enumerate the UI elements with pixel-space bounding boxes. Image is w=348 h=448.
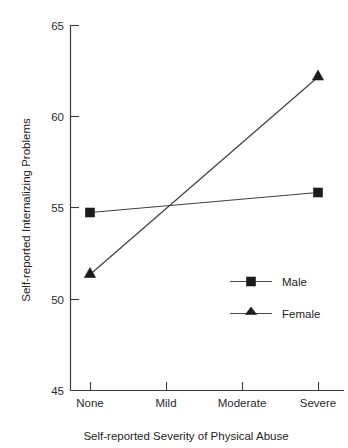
line-chart: 65 60 55 50 45 None Mild Moderate Severe <box>0 0 348 448</box>
x-tick-label-none: None <box>76 397 104 409</box>
legend-item-male[interactable]: Male <box>230 276 307 288</box>
x-tick-label-mild: Mild <box>155 397 176 409</box>
y-axis-title: Self-reported Internalizing Problems <box>20 118 32 302</box>
y-tick-label-55: 55 <box>51 202 64 214</box>
series-line-female <box>90 77 318 275</box>
y-tick-label-45: 45 <box>51 385 64 397</box>
series-line-male <box>90 193 318 213</box>
y-tick-label-60: 60 <box>51 111 64 123</box>
triangle-marker <box>245 307 256 315</box>
data-point-male-none <box>86 208 95 217</box>
y-tick-label-50: 50 <box>51 294 64 306</box>
y-axis-ticks <box>71 26 80 300</box>
data-point-female-none <box>84 268 95 278</box>
legend-item-female[interactable]: Female <box>230 307 320 320</box>
legend-label-female: Female <box>282 308 320 320</box>
data-point-female-severe <box>312 70 323 80</box>
legend: Male Female <box>230 276 320 320</box>
chart-canvas: 65 60 55 50 45 None Mild Moderate Severe <box>0 0 348 448</box>
x-axis-title: Self-reported Severity of Physical Abuse <box>83 430 288 442</box>
legend-label-male: Male <box>282 276 307 288</box>
data-point-male-severe <box>314 188 323 197</box>
x-tick-label-severe: Severe <box>300 397 336 409</box>
x-tick-label-moderate: Moderate <box>218 397 267 409</box>
y-tick-label-65: 65 <box>51 20 64 32</box>
square-marker <box>247 277 256 286</box>
x-axis-ticks <box>91 382 319 391</box>
